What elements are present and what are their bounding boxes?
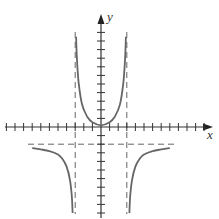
y-axis-label: y — [105, 9, 113, 24]
left-branch-curve — [32, 148, 72, 213]
x-axis-label: x — [206, 127, 213, 142]
right-branch-curve — [129, 148, 169, 213]
function-graph: y x — [0, 0, 219, 219]
y-axis-arrow-icon — [98, 14, 105, 24]
axes — [5, 14, 213, 218]
